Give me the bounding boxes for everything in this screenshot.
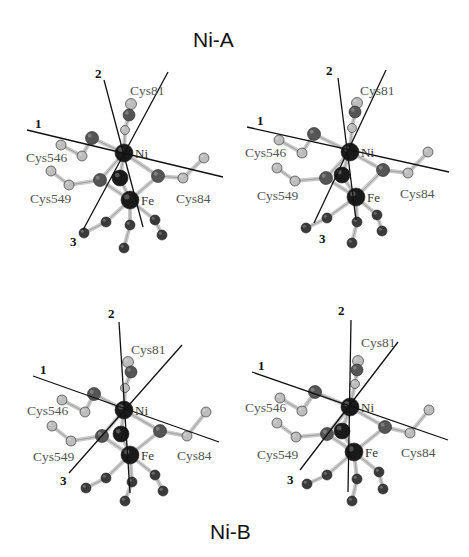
cys84-label: Cys84 bbox=[176, 191, 211, 206]
cys81-label: Cys81 bbox=[130, 83, 165, 98]
fe-label: Fe bbox=[367, 190, 380, 205]
cys546-label: Cys546 bbox=[245, 145, 287, 160]
carbon-atom-highlight bbox=[407, 430, 410, 433]
ligand-atom bbox=[352, 474, 362, 484]
carbon-atom bbox=[121, 384, 130, 393]
bridging-atom-highlight bbox=[337, 426, 342, 431]
ligand-atom bbox=[81, 483, 91, 493]
carbon-atom-highlight bbox=[59, 397, 62, 400]
carbon-atom-highlight bbox=[405, 170, 408, 173]
ligand-atom-highlight bbox=[303, 225, 306, 228]
ligand-atom-highlight bbox=[324, 215, 327, 218]
carbon-atom-highlight bbox=[274, 420, 277, 423]
ligand-atom-highlight bbox=[160, 488, 163, 491]
carbon-atom-highlight bbox=[203, 409, 206, 412]
sulfur-atom-highlight bbox=[322, 174, 326, 178]
cys549-label: Cys549 bbox=[33, 449, 75, 464]
ligand-atom bbox=[150, 470, 160, 480]
ligand-atom bbox=[372, 210, 382, 220]
carbon-atom-highlight bbox=[426, 407, 429, 410]
carbon-atom bbox=[47, 421, 57, 431]
carbon-atom-highlight bbox=[184, 433, 187, 436]
ligand-atom bbox=[377, 226, 387, 236]
carbon-atom bbox=[348, 124, 357, 133]
sulfur-atom bbox=[123, 109, 135, 121]
ni-label: Ni bbox=[135, 146, 148, 161]
carbon-atom-highlight bbox=[48, 168, 51, 171]
sulfur-atom-highlight bbox=[381, 423, 385, 427]
sulfur-atom-highlight bbox=[88, 134, 92, 138]
carbon-atom bbox=[297, 148, 307, 158]
ni-label: Ni bbox=[135, 403, 148, 418]
ligand-atom-highlight bbox=[81, 230, 84, 233]
fe-label: Fe bbox=[141, 448, 154, 463]
carbon-atom-highlight bbox=[68, 438, 71, 441]
axis-3-label: 3 bbox=[287, 472, 294, 487]
carbon-atom-highlight bbox=[354, 357, 357, 360]
ligand-atom bbox=[302, 479, 312, 489]
stereo-panel-ni-b-right: 123NiFeCys81Cys546Cys549Cys84 bbox=[230, 300, 469, 510]
carbon-atom-highlight bbox=[292, 178, 295, 181]
cys84-label: Cys84 bbox=[177, 448, 212, 463]
ligand-atom bbox=[301, 223, 311, 233]
stereo-panel-ni-a-right: 123NiFeCys81Cys546Cys549Cys84 bbox=[230, 60, 469, 260]
axis-1-label: 1 bbox=[40, 362, 47, 377]
ligand-atom-highlight bbox=[159, 232, 162, 235]
axis-2-label: 2 bbox=[108, 306, 115, 321]
ligand-atom-highlight bbox=[103, 475, 106, 478]
ligand-atom-highlight bbox=[121, 245, 124, 248]
carbon-atom bbox=[291, 432, 301, 442]
sulfur-atom-highlight bbox=[98, 432, 102, 436]
cys546-label: Cys546 bbox=[27, 403, 69, 418]
carbon-atom-highlight bbox=[201, 155, 204, 158]
sulfur-atom-highlight bbox=[90, 390, 94, 394]
carbon-atom-highlight bbox=[124, 358, 127, 361]
stereo-panel-ni-b-left: 123NiFeCys81Cys546Cys549Cys84 bbox=[0, 300, 240, 510]
cys81-label: Cys81 bbox=[131, 342, 166, 357]
iron-atom-highlight bbox=[124, 194, 129, 199]
ligand-atom bbox=[119, 243, 129, 253]
carbon-atom-highlight bbox=[49, 423, 52, 426]
cys549-label: Cys549 bbox=[257, 447, 299, 462]
iron-atom bbox=[345, 443, 363, 461]
ligand-atom bbox=[352, 217, 362, 227]
carbon-atom bbox=[274, 135, 284, 145]
ligand-atom bbox=[101, 217, 111, 227]
carbon-atom bbox=[80, 407, 90, 417]
carbon-atom-highlight bbox=[180, 175, 183, 178]
carbon-atom-highlight bbox=[127, 100, 130, 103]
ligand-atom bbox=[120, 496, 130, 506]
axis-1-label: 1 bbox=[258, 358, 265, 373]
sulfur-atom bbox=[152, 170, 165, 183]
carbon-atom bbox=[423, 147, 433, 157]
cys549-label: Cys549 bbox=[30, 191, 72, 206]
carbon-atom-highlight bbox=[82, 409, 85, 412]
fe-label: Fe bbox=[365, 445, 378, 460]
carbon-atom-highlight bbox=[293, 434, 296, 437]
carbon-atom bbox=[199, 153, 209, 163]
sulfur-atom bbox=[88, 388, 101, 401]
sulfur-atom-highlight bbox=[125, 111, 129, 115]
carbon-atom bbox=[424, 405, 434, 415]
carbon-atom bbox=[201, 407, 211, 417]
carbon-atom-highlight bbox=[425, 149, 428, 152]
ni-label: Ni bbox=[361, 400, 374, 415]
axis-1-label: 1 bbox=[257, 113, 264, 128]
ligand-atom bbox=[125, 220, 135, 230]
ligand-atom bbox=[158, 486, 168, 496]
carbon-atom-highlight bbox=[58, 142, 61, 145]
axis-3-label: 3 bbox=[319, 231, 326, 246]
carbon-atom bbox=[290, 176, 300, 186]
ligand-atom-highlight bbox=[304, 481, 307, 484]
sulfur-atom bbox=[351, 364, 363, 376]
carbon-atom-highlight bbox=[274, 165, 277, 168]
carbon-atom bbox=[297, 406, 307, 416]
carbon-atom bbox=[121, 126, 130, 135]
ligand-atom bbox=[322, 213, 332, 223]
sulfur-atom-highlight bbox=[323, 430, 327, 434]
ligand-atom-highlight bbox=[103, 219, 106, 222]
sulfur-atom bbox=[125, 366, 137, 378]
figure-title-ni-b: Ni-B bbox=[210, 520, 251, 544]
carbon-atom-highlight bbox=[299, 150, 302, 153]
ligand-atom-highlight bbox=[376, 469, 379, 472]
